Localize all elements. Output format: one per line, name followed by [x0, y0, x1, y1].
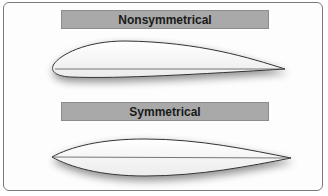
- nonsymmetrical-airfoil: [53, 41, 285, 77]
- symmetrical-airfoil: [52, 139, 291, 176]
- airfoil-illustrations: [0, 0, 328, 196]
